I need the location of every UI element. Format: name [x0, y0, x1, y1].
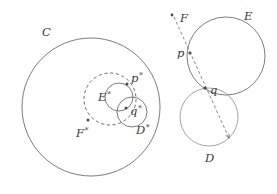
label-F-star: F*: [75, 126, 88, 141]
figure-root: C E* F* D* p* q* F E D p q: [0, 0, 277, 194]
label-p-star-base: p: [131, 71, 139, 85]
point-q-star: [125, 107, 128, 110]
label-D-star-base: D: [135, 123, 145, 137]
label-C: C: [42, 25, 51, 39]
label-p-star-mark: *: [139, 71, 143, 80]
dashed-ray-F-to-D: [174, 17, 229, 138]
point-F: [171, 14, 174, 17]
point-F-star-center: [87, 119, 90, 122]
label-F-star-mark: *: [84, 126, 88, 135]
point-q: [203, 86, 206, 89]
label-p: p: [177, 46, 185, 60]
circle-F-star: [84, 73, 136, 125]
label-E-star: E*: [97, 90, 111, 105]
label-q: q: [210, 83, 217, 97]
right-panel: F E D p q: [171, 9, 265, 165]
label-q-star: q*: [130, 104, 142, 119]
label-E-star-base: E: [97, 90, 107, 104]
circle-D: [180, 88, 238, 146]
label-F: F: [179, 11, 189, 25]
point-p-star: [126, 83, 129, 86]
label-p-star: p*: [131, 71, 143, 86]
circle-E: [187, 17, 265, 95]
label-D: D: [204, 151, 214, 165]
label-E: E: [243, 9, 253, 23]
label-E-star-mark: *: [107, 90, 111, 99]
label-q-star-base: q: [130, 104, 137, 118]
label-D-star-mark: *: [146, 123, 150, 132]
label-D-star: D*: [135, 123, 150, 138]
left-panel: C E* F* D* p* q*: [22, 25, 160, 176]
point-p: [188, 51, 191, 54]
geometry-diagram: C E* F* D* p* q* F E D p q: [0, 0, 277, 194]
label-q-star-mark: *: [138, 104, 142, 113]
